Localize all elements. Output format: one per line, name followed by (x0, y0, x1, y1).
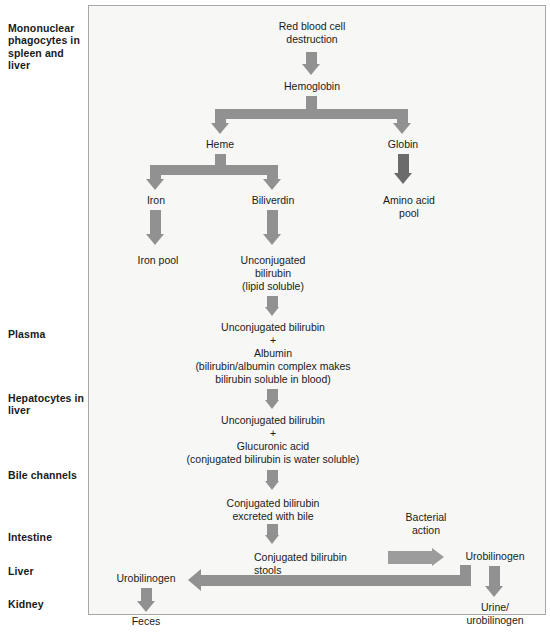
node-unconjugated-lipid-soluble: Unconjugated bilirubin (lipid soluble) (213, 254, 333, 292)
arrow-heme-to-iron-head (146, 179, 164, 190)
node-bacterial-action: Bacterial action (385, 511, 467, 537)
node-conjugated-bile: Conjugated bilirubin excreted with bile (202, 497, 344, 523)
side-label-mononuclear: Mononuclear phagocytes in spleen and liv… (8, 22, 88, 72)
arrow-hemoglobin-to-globin-head (393, 123, 411, 134)
arrow-urobilinogen-to-urine-shaft (489, 566, 500, 586)
arrow-rbc-to-hemoglobin-shaft (306, 52, 317, 64)
node-feces: Feces (111, 615, 181, 628)
node-plus-albumin: + (243, 334, 303, 347)
arrow-bacterial-action-head (432, 548, 444, 566)
arrow-to-plasma-head (265, 307, 279, 316)
arrow-biliverdin-to-unconjugated-shaft (267, 210, 278, 234)
side-label-liver: Liver (8, 565, 88, 577)
arrow-globin-to-amino-shaft (398, 154, 409, 173)
node-plus-glucuronic: + (243, 427, 303, 440)
node-urobilinogen-liver: Urobilinogen (98, 572, 194, 585)
arrow-hepatocytes-to-bile-shaft (267, 470, 278, 481)
arrow-urobilinogen-to-feces-head (137, 601, 155, 612)
arrow-urobilinogen-to-urine-head (485, 586, 503, 597)
node-globin: Globin (363, 138, 443, 151)
figure-root: Mononuclear phagocytes in spleen and liv… (0, 0, 550, 633)
arrow-heme-split-bar (150, 165, 278, 175)
arrow-biliverdin-to-unconjugated-head (263, 234, 281, 245)
node-glucuronic-acid: Glucuronic acid (218, 440, 328, 453)
arrow-bile-to-intestine-head (265, 535, 279, 544)
arrow-rbc-to-hemoglobin-head (302, 64, 320, 75)
arrow-bile-to-intestine-shaft (267, 524, 278, 535)
node-glucuronic-note: (conjugated bilirubin is water soluble) (166, 453, 380, 466)
arrow-hepatocytes-to-bile-head (265, 481, 279, 490)
arrow-elbow-horizontal (201, 575, 471, 586)
arrow-bacterial-action-shaft (388, 551, 432, 564)
side-label-hepatocytes: Hepatocytes in liver (8, 392, 88, 417)
diagram-panel: Red blood cell destruction Hemoglobin He… (88, 5, 546, 615)
arrow-heme-to-iron-shaft (150, 165, 161, 179)
arrow-iron-to-ironpool-shaft (150, 210, 161, 234)
node-biliverdin: Biliverdin (228, 194, 318, 207)
arrow-heme-to-biliverdin-shaft (267, 165, 278, 179)
arrow-globin-to-amino-head (394, 173, 412, 184)
node-hemoglobin: Hemoglobin (262, 80, 362, 93)
side-label-kidney: Kidney (8, 598, 88, 610)
node-heme: Heme (180, 138, 260, 151)
side-label-intestine: Intestine (8, 531, 88, 543)
side-label-plasma: Plasma (8, 328, 88, 340)
node-amino-acid-pool: Amino acid pool (362, 194, 456, 220)
node-rbc-destruction: Red blood cell destruction (242, 20, 382, 46)
node-unconjugated-plasma: Unconjugated bilirubin (198, 321, 348, 334)
arrow-heme-to-biliverdin-head (263, 179, 281, 190)
arrow-iron-to-ironpool-head (146, 234, 164, 245)
node-conjugated-stools: Conjugated bilirubin stools (254, 551, 389, 577)
node-iron: Iron (116, 194, 196, 207)
node-albumin-note: (bilirubin/albumin complex makes bilirub… (170, 360, 376, 386)
node-urobilinogen-intestine: Urobilinogen (447, 550, 543, 563)
arrow-hemoglobin-split-bar (215, 109, 408, 119)
arrow-hemoglobin-to-globin-shaft (397, 109, 408, 123)
node-iron-pool: Iron pool (113, 254, 203, 267)
arrow-hemoglobin-to-heme-head (211, 123, 229, 134)
node-unconjugated-hepatocytes: Unconjugated bilirubin (198, 414, 348, 427)
arrow-plasma-to-hepatocytes-shaft (267, 389, 278, 400)
side-label-bile-channels: Bile channels (8, 469, 92, 481)
node-albumin: Albumin (233, 347, 313, 360)
arrow-hemoglobin-to-heme-shaft (215, 109, 226, 123)
node-urine-urobilinogen: Urine/ urobilinogen (447, 601, 543, 627)
arrow-to-plasma-shaft (267, 296, 278, 307)
arrow-urobilinogen-to-feces-shaft (141, 588, 152, 601)
arrow-plasma-to-hepatocytes-head (265, 400, 279, 409)
